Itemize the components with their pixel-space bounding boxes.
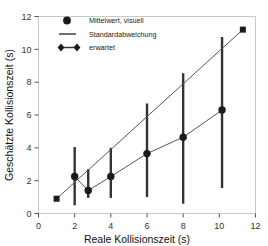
legend-label-stddev: Standardabweichung [89,30,157,39]
chart-figure: 024681012 024681012 Mittelwert, visuell … [0,0,268,246]
chart-svg: 024681012 024681012 Mittelwert, visuell … [0,0,268,246]
x-tick-label: 4 [108,221,113,231]
data-point [143,150,150,157]
y-tick-label: 0 [26,209,31,219]
y-tick-label: 10 [21,45,31,55]
x-tick-label: 2 [72,221,77,231]
legend-label-expected: erwartet [89,43,115,52]
data-point [85,187,92,194]
x-tick-label: 10 [214,221,224,231]
legend-marker-mean-icon [63,17,71,25]
y-tick-label: 8 [26,77,31,87]
data-point [179,133,186,140]
chart-canvas: 024681012 024681012 Mittelwert, visuell … [0,0,268,246]
data-point [218,106,225,113]
expected-endpoint-marker [240,27,246,33]
x-tick-label: 8 [181,221,186,231]
data-point [71,173,78,180]
data-point [107,173,114,180]
y-axis-title: Geschätzte Kollisionszeit (s) [3,49,15,181]
x-tick-label: 12 [250,221,260,231]
x-tick-label: 6 [144,221,149,231]
y-tick-label: 2 [26,176,31,186]
y-tick-label: 6 [26,110,31,120]
expected-endpoint-marker [54,196,60,202]
y-tick-label: 4 [26,143,31,153]
x-axis-title: Reale Kollisionszeit (s) [84,233,190,245]
y-tick-label: 12 [21,12,31,22]
legend-label-mean: Mittelwert, visuell [89,16,144,25]
x-tick-label: 0 [36,221,41,231]
